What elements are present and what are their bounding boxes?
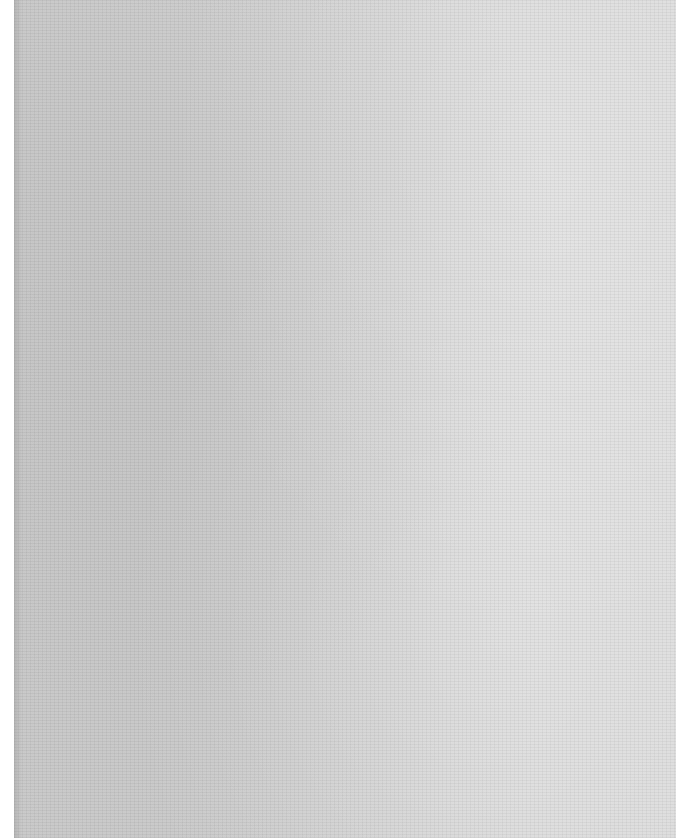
scanned-document <box>0 0 676 838</box>
blank-paper-page <box>14 0 676 838</box>
page-content <box>14 0 676 838</box>
